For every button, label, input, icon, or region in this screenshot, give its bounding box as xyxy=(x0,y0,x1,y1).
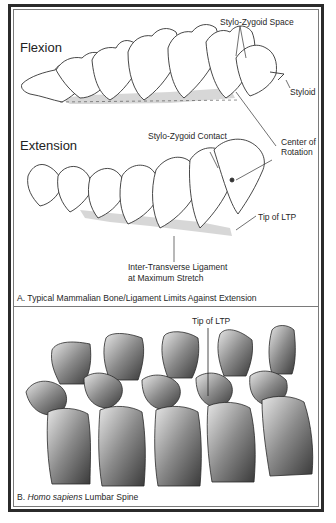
caption-prefix: B. xyxy=(17,492,28,502)
panel-b-drawing xyxy=(0,0,336,523)
caption-species: Homo sapiens xyxy=(28,492,83,502)
label-tip-of-ltp-b: Tip of LTP xyxy=(192,316,230,326)
panel-b-caption: B. Homo sapiens Lumbar Spine xyxy=(17,492,138,502)
caption-suffix: Lumbar Spine xyxy=(82,492,138,502)
lumbar-vertebrae-icon xyxy=(26,326,313,487)
